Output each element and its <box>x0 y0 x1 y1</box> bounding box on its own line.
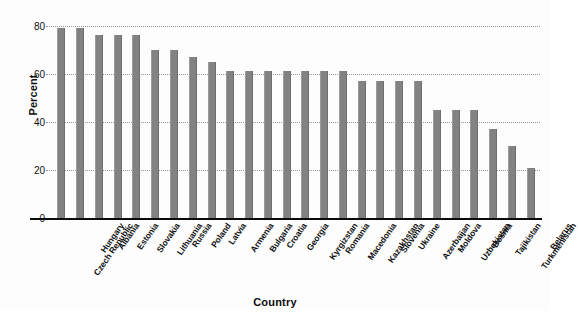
bar <box>320 71 328 218</box>
bar <box>189 57 197 218</box>
bar <box>470 110 478 218</box>
bar <box>301 71 309 218</box>
bar <box>527 168 535 219</box>
bar <box>376 81 384 218</box>
bars-group <box>52 16 540 218</box>
bar <box>208 62 216 218</box>
plot-area: 020406080 <box>52 16 540 218</box>
bar <box>395 81 403 218</box>
bar <box>132 35 140 218</box>
x-axis-line <box>30 218 542 220</box>
y-axis-tick-label: 40 <box>34 116 45 127</box>
bar <box>339 71 347 218</box>
bar <box>414 81 422 218</box>
bar <box>489 129 497 218</box>
bar <box>95 35 103 218</box>
bar <box>57 28 65 218</box>
bar <box>245 71 253 218</box>
y-axis-tick-label: 20 <box>34 164 45 175</box>
x-axis-tick-label: Tajikistan <box>513 221 543 258</box>
x-axis-label: Country <box>0 296 550 308</box>
bar <box>170 50 178 218</box>
bar <box>226 71 234 218</box>
bar <box>114 35 122 218</box>
bar <box>508 146 516 218</box>
bar <box>283 71 291 218</box>
bar <box>452 110 460 218</box>
bar <box>151 50 159 218</box>
bar <box>433 110 441 218</box>
y-axis-tick-label: 60 <box>34 68 45 79</box>
bar <box>76 28 84 218</box>
bar <box>264 71 272 218</box>
y-axis-tick-label: 80 <box>34 20 45 31</box>
bar <box>358 81 366 218</box>
x-axis-ticks-group: Czech RepublicHungaryAlbaniaEstoniaSlova… <box>52 221 540 291</box>
